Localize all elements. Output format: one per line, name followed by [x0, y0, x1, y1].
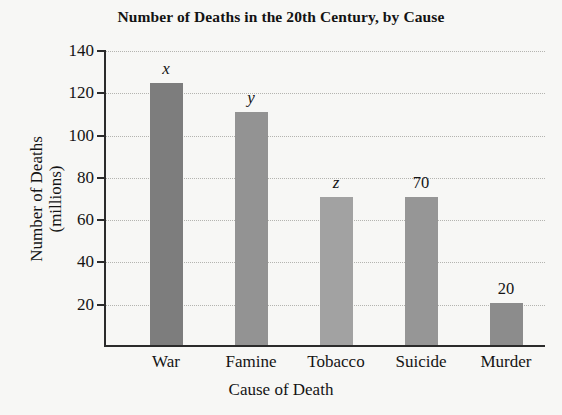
bar: yFamine [235, 112, 268, 345]
x-axis-category-label: War [152, 352, 180, 372]
x-axis-category-label: Murder [481, 352, 532, 372]
y-axis-tick [97, 261, 106, 263]
bar: 70Suicide [405, 197, 438, 345]
plot-area: 20406080100120140xWaryFaminezTobacco70Su… [104, 51, 545, 347]
x-axis-category-label: Tobacco [307, 352, 364, 372]
y-axis-title: Number of Deaths (millions) [18, 94, 74, 304]
y-axis-tick-label: 20 [77, 294, 94, 314]
chart-title: Number of Deaths in the 20th Century, by… [0, 8, 562, 26]
bar: xWar [150, 83, 183, 345]
bar: zTobacco [320, 197, 353, 345]
y-axis-tick [97, 92, 106, 94]
y-axis-tick-label: 60 [77, 210, 94, 230]
bar-value-label: y [247, 88, 255, 108]
y-axis-tick [97, 135, 106, 137]
y-axis-title-line-1: Number of Deaths [27, 136, 46, 262]
bar-value-label: 20 [498, 279, 515, 299]
x-axis-category-label: Famine [226, 352, 277, 372]
x-axis-line [104, 345, 545, 347]
gridline [106, 51, 545, 52]
bar: 20Murder [490, 303, 523, 345]
y-axis-line [104, 51, 106, 347]
y-axis-tick-label: 140 [69, 41, 95, 61]
bar-value-label: x [162, 59, 170, 79]
y-axis-tick-label: 80 [77, 167, 94, 187]
y-axis-tick [97, 304, 106, 306]
y-axis-tick [97, 50, 106, 52]
bar-value-label: z [333, 173, 340, 193]
bar-chart: Number of Deaths in the 20th Century, by… [0, 0, 562, 415]
bar-value-label: 70 [413, 173, 430, 193]
x-axis-category-label: Suicide [396, 352, 447, 372]
y-axis-tick-label: 40 [77, 252, 94, 272]
x-axis-title: Cause of Death [0, 380, 562, 400]
y-axis-title-line-2: (millions) [46, 165, 65, 232]
y-axis-tick [97, 177, 106, 179]
y-axis-tick [97, 219, 106, 221]
